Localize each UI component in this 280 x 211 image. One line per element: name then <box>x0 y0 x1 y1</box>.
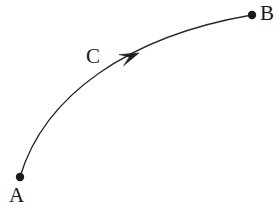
point-b-label: B <box>260 3 274 24</box>
point-a-label: A <box>9 185 24 206</box>
figure-canvas: A B C <box>0 0 280 211</box>
curve-a-to-b <box>20 15 252 177</box>
diagram-svg <box>0 0 280 211</box>
curve-label-c: C <box>86 46 100 67</box>
point-a-dot <box>16 173 24 181</box>
point-b-dot <box>248 11 256 19</box>
